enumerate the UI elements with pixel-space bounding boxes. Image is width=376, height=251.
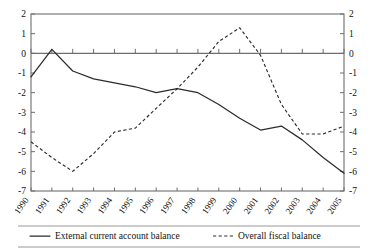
x-axis-label: 2001 [242, 195, 261, 215]
y-axis-label-right: 2 [349, 9, 354, 19]
line-chart-canvas: 221100-1-1-2-2-3-3-4-4-5-5-6-6-7-7199019… [0, 0, 376, 251]
x-axis-label: 1993 [75, 195, 94, 216]
x-axis-label: 1990 [12, 195, 31, 216]
x-axis-label: 2000 [221, 195, 240, 216]
y-axis-label-right: -5 [349, 147, 357, 157]
x-axis-label: 1996 [137, 195, 156, 216]
y-axis-label-right: -1 [349, 68, 357, 78]
plot-frame [31, 14, 344, 191]
y-axis-label-right: -2 [349, 88, 357, 98]
legend-label-1: External current account balance [55, 231, 180, 241]
series-line-1 [31, 49, 344, 173]
x-axis-label: 1995 [116, 195, 135, 216]
y-axis-label-right: -3 [349, 108, 357, 118]
x-axis-label: 2005 [325, 195, 344, 216]
series-line-2 [31, 28, 344, 172]
legend-label-2: Overall fiscal balance [238, 231, 321, 241]
x-axis-label: 1997 [158, 195, 177, 216]
chart-figure: 221100-1-1-2-2-3-3-4-4-5-5-6-6-7-7199019… [0, 0, 376, 251]
y-axis-label-right: 1 [349, 29, 354, 39]
y-axis-label-left: -6 [18, 167, 26, 177]
x-axis-label: 1991 [33, 195, 52, 215]
y-axis-label-right: -4 [349, 127, 357, 137]
y-axis-label-left: 0 [21, 49, 26, 59]
y-axis-label-left: -1 [18, 68, 26, 78]
x-axis-label: 2002 [263, 195, 282, 215]
y-axis-label-left: -3 [18, 108, 26, 118]
x-axis-label: 2004 [304, 195, 323, 216]
y-axis-label-left: 1 [21, 29, 26, 39]
x-axis-label: 1994 [96, 195, 115, 216]
x-axis-label: 2003 [283, 195, 302, 216]
y-axis-label-left: 2 [21, 9, 26, 19]
y-axis-label-right: -7 [349, 186, 357, 196]
x-axis-label: 1999 [200, 195, 219, 216]
y-axis-label-left: -7 [18, 186, 26, 196]
x-axis-label: 1998 [179, 195, 198, 216]
x-axis-label: 1992 [54, 195, 73, 215]
y-axis-label-left: -4 [18, 127, 26, 137]
y-axis-label-left: -5 [18, 147, 26, 157]
y-axis-label-right: -6 [349, 167, 357, 177]
y-axis-label-right: 0 [349, 49, 354, 59]
y-axis-label-left: -2 [18, 88, 26, 98]
